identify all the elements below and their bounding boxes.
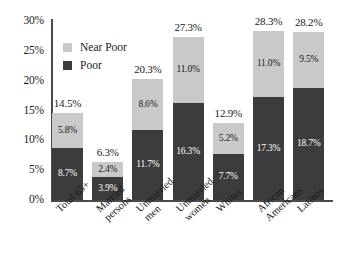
bar-segment-label: 2.4% bbox=[98, 165, 117, 175]
bar-total-label: 27.3% bbox=[163, 22, 214, 33]
bar-segment-label: 11.0% bbox=[177, 65, 200, 75]
legend-swatch-icon bbox=[63, 61, 72, 70]
legend-label: Poor bbox=[80, 60, 102, 72]
bar-segment-label: 17.3% bbox=[257, 144, 281, 154]
bar-segment-near-poor[interactable]: 11.0% bbox=[253, 31, 284, 97]
bar-total-label: 6.3% bbox=[82, 147, 133, 158]
y-axis-tick-label: 0% bbox=[0, 194, 44, 206]
bar-segment-label: 5.2% bbox=[219, 134, 238, 144]
y-axis-tick-label: 25% bbox=[0, 45, 44, 57]
stacked-bar-chart: 30%25%20%15%10%5%0% Near PoorPoor 5.8%8.… bbox=[0, 0, 340, 272]
bar-group[interactable]: 11.0%16.3%27.3% bbox=[173, 37, 204, 200]
legend-item-poor[interactable]: Poor bbox=[63, 58, 127, 73]
bar-segment-near-poor[interactable]: 5.8% bbox=[52, 113, 83, 148]
y-axis-tick-label: 5% bbox=[0, 164, 44, 176]
bar-segment-label: 11.7% bbox=[136, 160, 159, 170]
bar-segment-label: 9.5% bbox=[299, 55, 318, 65]
y-axis-tick-label: 15% bbox=[0, 105, 44, 117]
bar-total-label: 28.2% bbox=[283, 17, 334, 28]
bar-segment-label: 5.8% bbox=[58, 126, 77, 136]
bar-segment-near-poor[interactable]: 11.0% bbox=[173, 37, 204, 103]
bar-segment-label: 7.7% bbox=[219, 172, 238, 182]
bar-group[interactable]: 9.5%18.7%28.2% bbox=[293, 32, 324, 200]
legend-swatch-icon bbox=[63, 43, 72, 52]
bar-total-label: 14.5% bbox=[42, 98, 93, 109]
legend-label: Near Poor bbox=[80, 42, 127, 54]
bar-segment-near-poor[interactable]: 9.5% bbox=[293, 32, 324, 89]
y-axis-tick-label: 30% bbox=[0, 15, 44, 27]
bar-segment-label: 18.7% bbox=[297, 139, 321, 149]
bar-segment-near-poor[interactable]: 8.6% bbox=[132, 79, 163, 130]
bar-segment-label: 8.6% bbox=[138, 100, 157, 110]
bar-segment-label: 8.7% bbox=[58, 169, 77, 179]
bar-segment-poor[interactable]: 18.7% bbox=[293, 88, 324, 200]
bar-group[interactable]: 11.0%17.3%28.3% bbox=[253, 31, 284, 200]
legend-item-near-poor[interactable]: Near Poor bbox=[63, 40, 127, 55]
bar-total-label: 12.9% bbox=[203, 108, 254, 119]
y-axis-tick-label: 20% bbox=[0, 75, 44, 87]
bar-segment-label: 11.0% bbox=[257, 59, 280, 69]
bar-segment-near-poor[interactable]: 5.2% bbox=[213, 123, 244, 154]
chart-legend: Near PoorPoor bbox=[63, 40, 127, 76]
bar-group[interactable]: 8.6%11.7%20.3% bbox=[132, 79, 163, 200]
bar-total-label: 20.3% bbox=[122, 64, 173, 75]
bar-segment-label: 16.3% bbox=[176, 147, 200, 157]
bar-segment-near-poor[interactable]: 2.4% bbox=[92, 162, 123, 176]
y-axis-tick-label: 10% bbox=[0, 134, 44, 146]
